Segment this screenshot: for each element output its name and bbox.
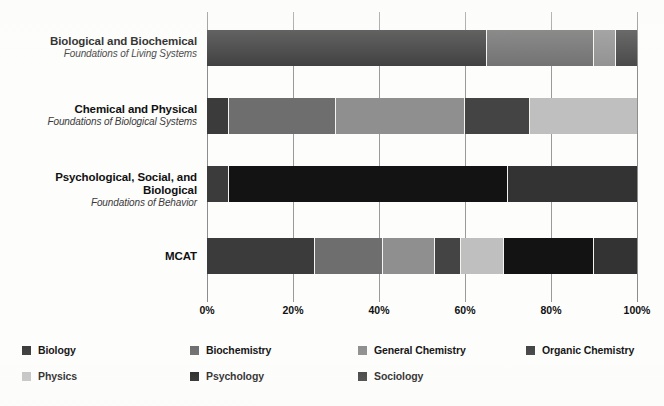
category-label: Psychological, Social, and BiologicalFou…	[0, 171, 197, 209]
category-axis-labels: Biological and BiochemicalFoundations of…	[0, 12, 203, 302]
bar-segment-sociology	[508, 166, 637, 202]
category-label-main: Psychological, Social, and Biological	[0, 171, 197, 197]
legend-swatch-icon	[22, 346, 31, 355]
bar-segment-general-chemistry	[594, 30, 616, 66]
bar-segment-physics	[461, 238, 504, 274]
x-tick-label: 100%	[624, 304, 651, 316]
stacked-bar-chart: Biological and BiochemicalFoundations of…	[0, 0, 664, 406]
legend-label: Sociology	[374, 370, 423, 382]
bar-segment-biochemistry	[487, 30, 595, 66]
legend-item-sociology[interactable]: Sociology	[358, 370, 423, 382]
bar-segment-biology	[207, 238, 315, 274]
category-label-sub: Foundations of Behavior	[0, 197, 197, 209]
x-tick-label: 0%	[199, 304, 214, 316]
legend-swatch-icon	[22, 372, 31, 381]
bar-segment-organic-chemistry	[616, 30, 638, 66]
bar-segment-general-chemistry	[383, 238, 435, 274]
category-label: MCAT	[0, 250, 197, 263]
legend-swatch-icon	[190, 372, 199, 381]
bar-segment-psychology	[229, 166, 509, 202]
legend-label: Biochemistry	[206, 344, 271, 356]
category-label: Chemical and PhysicalFoundations of Biol…	[0, 103, 197, 128]
legend-item-organic-chemistry[interactable]: Organic Chemistry	[526, 344, 634, 356]
bar-segment-biology	[207, 98, 229, 134]
bar-segment-organic-chemistry	[465, 98, 530, 134]
category-label-sub: Foundations of Living Systems	[0, 48, 197, 60]
legend-swatch-icon	[358, 346, 367, 355]
legend-label: Biology	[38, 344, 76, 356]
legend-label: Psychology	[206, 370, 264, 382]
bar-segment-biochemistry	[315, 238, 384, 274]
bar-segment-sociology	[594, 238, 637, 274]
legend-label: Physics	[38, 370, 77, 382]
x-tick-label: 40%	[368, 304, 389, 316]
bar-segment-biology	[207, 30, 487, 66]
legend-swatch-icon	[526, 346, 535, 355]
x-tick-label: 80%	[540, 304, 561, 316]
gridline-100	[637, 12, 638, 302]
bar-row	[207, 166, 637, 202]
bar-segment-organic-chemistry	[435, 238, 461, 274]
chart-legend: BiologyBiochemistryGeneral ChemistryOrga…	[22, 344, 642, 394]
legend-item-physics[interactable]: Physics	[22, 370, 77, 382]
bar-segment-general-chemistry	[336, 98, 465, 134]
legend-item-psychology[interactable]: Psychology	[190, 370, 264, 382]
x-axis-ticks: 0%20%40%60%80%100%	[207, 304, 637, 322]
category-label-main: Biological and Biochemical	[0, 35, 197, 48]
bar-row	[207, 98, 637, 134]
x-tick-label: 20%	[282, 304, 303, 316]
legend-item-general-chemistry[interactable]: General Chemistry	[358, 344, 466, 356]
legend-swatch-icon	[358, 372, 367, 381]
category-label-main: MCAT	[0, 250, 197, 263]
plot-area	[207, 12, 637, 302]
category-label-main: Chemical and Physical	[0, 103, 197, 116]
bar-segment-psychology	[504, 238, 594, 274]
legend-label: Organic Chemistry	[542, 344, 634, 356]
legend-swatch-icon	[190, 346, 199, 355]
legend-label: General Chemistry	[374, 344, 466, 356]
category-label: Biological and BiochemicalFoundations of…	[0, 35, 197, 60]
bars-layer	[207, 12, 637, 302]
bar-row	[207, 238, 637, 274]
category-label-sub: Foundations of Biological Systems	[0, 116, 197, 128]
bar-segment-physics	[530, 98, 638, 134]
legend-item-biochemistry[interactable]: Biochemistry	[190, 344, 271, 356]
bar-segment-biology	[207, 166, 229, 202]
legend-item-biology[interactable]: Biology	[22, 344, 76, 356]
bar-row	[207, 30, 637, 66]
bar-segment-biochemistry	[229, 98, 337, 134]
x-tick-label: 60%	[454, 304, 475, 316]
